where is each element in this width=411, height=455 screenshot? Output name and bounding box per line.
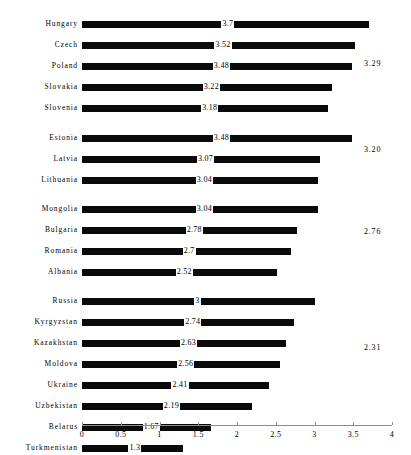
axis-line (82, 425, 392, 426)
axis-tick (353, 422, 354, 425)
category-label: Kyrgyzstan (0, 315, 78, 329)
category-label: Mongolia (0, 202, 78, 216)
category-label: Poland (0, 59, 78, 73)
axis-tick (392, 422, 393, 425)
bar-value-label: 2.41 (171, 378, 188, 392)
axis-tick-label: 1.5 (193, 430, 204, 439)
bar-value-label: 3 (194, 294, 200, 308)
axis-tick-label: 4 (390, 430, 394, 439)
axis-tick-label: 0.5 (115, 430, 126, 439)
axis-tick-label: 0 (80, 430, 84, 439)
bar-value-label: 2.56 (177, 357, 194, 371)
plot-area: Hungary3.7Czech3.52Poland3.48Slovakia3.2… (0, 0, 411, 455)
axis-tick (82, 422, 83, 425)
bar-row: Russia3 (0, 294, 411, 308)
bar-value-label: 3.48 (213, 59, 230, 73)
bar-value-label: 3.22 (203, 80, 220, 94)
category-label: Estonia (0, 131, 78, 145)
category-label: Latvia (0, 152, 78, 166)
category-label: Bulgaria (0, 223, 78, 237)
bar-row: Czech3.52 (0, 38, 411, 52)
axis-tick (276, 422, 277, 425)
axis-tick (121, 422, 122, 425)
bar-row: Poland3.48 (0, 59, 411, 73)
category-label: Turkmenistan (0, 441, 78, 455)
category-label: Uzbekistan (0, 399, 78, 413)
bar-value-label: 2.74 (184, 315, 201, 329)
axis-tick-label: 3 (312, 430, 316, 439)
group-average-label: 2.31 (364, 343, 381, 352)
axis-tick-label: 3.5 (348, 430, 359, 439)
axis-tick-label: 2.5 (270, 430, 281, 439)
bar-row: Slovenia3.18 (0, 101, 411, 115)
bar-value-label: 2.7 (183, 244, 196, 258)
bar-row: Bulgaria2.78 (0, 223, 411, 237)
category-label: Albania (0, 265, 78, 279)
bar-value-label: 2.52 (176, 265, 193, 279)
category-label: Slovakia (0, 80, 78, 94)
bar-row: Mongolia3.04 (0, 202, 411, 216)
category-label: Ukraine (0, 378, 78, 392)
category-label: Slovenia (0, 101, 78, 115)
bar-value-label: 3.7 (221, 17, 234, 31)
bar-row: Albania2.52 (0, 265, 411, 279)
axis-tick-label: 2 (235, 430, 239, 439)
group-average-label: 3.20 (364, 145, 381, 154)
bar-value-label: 2.63 (180, 336, 197, 350)
category-label: Romania (0, 244, 78, 258)
bar-value-label: 3.18 (201, 101, 218, 115)
bar-row: Turkmenistan1.3 (0, 441, 411, 455)
bar-row: Kyrgyzstan2.74 (0, 315, 411, 329)
bar-row: Romania2.7 (0, 244, 411, 258)
bar-value-label: 2.19 (163, 399, 180, 413)
bar-row: Ukraine2.41 (0, 378, 411, 392)
axis-tick (198, 422, 199, 425)
bar-row: Uzbekistan2.19 (0, 399, 411, 413)
category-label: Moldova (0, 357, 78, 371)
bar-chart: Hungary3.7Czech3.52Poland3.48Slovakia3.2… (0, 0, 411, 455)
bar-row: Latvia3.07 (0, 152, 411, 166)
category-label: Kazakhstan (0, 336, 78, 350)
bar-value-label: 3.04 (196, 202, 213, 216)
bar-value-label: 3.48 (213, 131, 230, 145)
bar-row: Estonia3.48 (0, 131, 411, 145)
bar-value-label: 2.78 (186, 223, 203, 237)
bar-value-label: 3.52 (214, 38, 231, 52)
axis-tick-label: 1 (157, 430, 161, 439)
category-label: Belarus (0, 420, 78, 434)
axis-tick (237, 422, 238, 425)
category-label: Russia (0, 294, 78, 308)
bar-row: Hungary3.7 (0, 17, 411, 31)
bar-row: Slovakia3.22 (0, 80, 411, 94)
bar-value-label: 3.07 (197, 152, 214, 166)
group-average-label: 2.76 (364, 227, 381, 236)
axis-tick (315, 422, 316, 425)
axis-tick (160, 422, 161, 425)
bar-value-label: 1.3 (128, 441, 141, 455)
bar-row: Lithuania3.04 (0, 173, 411, 187)
category-label: Lithuania (0, 173, 78, 187)
category-label: Hungary (0, 17, 78, 31)
category-label: Czech (0, 38, 78, 52)
group-average-label: 3.29 (364, 59, 381, 68)
bar-value-label: 3.04 (196, 173, 213, 187)
bar-row: Kazakhstan2.63 (0, 336, 411, 350)
bar-row: Moldova2.56 (0, 357, 411, 371)
